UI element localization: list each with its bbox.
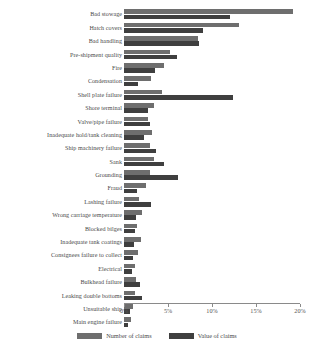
bar-value-of-claims <box>124 282 140 287</box>
category-label: Hatch covers <box>0 25 124 32</box>
category-label: Unsuitable ship <box>0 306 124 313</box>
bar-number-of-claims <box>124 317 131 322</box>
bar-group <box>124 289 314 302</box>
chart-row: Electrical <box>0 262 314 275</box>
chart-row: Fire <box>0 62 314 75</box>
category-label: Leaking double bottoms <box>0 293 124 300</box>
chart-row: Leaking double bottoms <box>0 289 314 302</box>
bar-value-of-claims <box>124 296 142 301</box>
chart-row: Ship machinery failure <box>0 142 314 155</box>
category-label: Bad stowage <box>0 11 124 18</box>
bar-number-of-claims <box>124 237 141 242</box>
category-label: Consignees failure to collect <box>0 252 124 259</box>
bar-group <box>124 182 314 195</box>
bar-value-of-claims <box>124 202 151 207</box>
plot-area: Bad stowageHatch coversBad handlingPre-s… <box>0 8 314 303</box>
category-label: Fire <box>0 65 124 72</box>
bar-group <box>124 115 314 128</box>
chart-row: Grounding <box>0 169 314 182</box>
bar-group <box>124 169 314 182</box>
bar-number-of-claims <box>124 250 138 255</box>
axis-tick-label: 20% <box>294 307 305 315</box>
bar-value-of-claims <box>124 82 138 87</box>
bar-number-of-claims <box>124 9 293 14</box>
bar-number-of-claims <box>124 157 154 162</box>
bar-value-of-claims <box>124 135 144 140</box>
chart-row: Hatch covers <box>0 21 314 34</box>
bar-number-of-claims <box>124 36 198 41</box>
bar-value-of-claims <box>124 323 128 328</box>
legend-item: Value of claims <box>169 332 237 339</box>
chart-row: Inadequate tank coatings <box>0 236 314 249</box>
category-label: Sank <box>0 159 124 166</box>
legend-item: Number of claims <box>77 332 151 339</box>
legend-swatch-icon <box>77 333 102 339</box>
bar-number-of-claims <box>124 63 164 68</box>
chart-row: Blocked bilges <box>0 222 314 235</box>
chart-row: Bad stowage <box>0 8 314 21</box>
category-label: Bulkhead failure <box>0 279 124 286</box>
chart-row: Pre-shipment quality <box>0 48 314 61</box>
chart-legend: Number of claimsValue of claims <box>0 332 314 339</box>
bar-number-of-claims <box>124 197 139 202</box>
chart-row: Bad handling <box>0 35 314 48</box>
chart-row: Fraud <box>0 182 314 195</box>
bar-value-of-claims <box>124 41 199 46</box>
bar-group <box>124 21 314 34</box>
category-label: Grounding <box>0 172 124 179</box>
bar-number-of-claims <box>124 23 239 28</box>
bar-group <box>124 102 314 115</box>
category-label: Shore terminal <box>0 105 124 112</box>
chart-row: Lashing failure <box>0 195 314 208</box>
bar-group <box>124 262 314 275</box>
category-label: Pre-shipment quality <box>0 52 124 59</box>
bar-number-of-claims <box>124 90 162 95</box>
legend-label: Number of claims <box>106 332 151 339</box>
category-label: Fraud <box>0 185 124 192</box>
axis-tick-label: 0% <box>120 307 128 315</box>
bar-value-of-claims <box>124 229 135 234</box>
bar-number-of-claims <box>124 264 135 269</box>
category-label: Inadequate tank coatings <box>0 239 124 246</box>
chart-row: Valve/pipe failure <box>0 115 314 128</box>
bar-group <box>124 249 314 262</box>
bar-group <box>124 236 314 249</box>
bar-group <box>124 142 314 155</box>
category-label: Ship machinery failure <box>0 145 124 152</box>
bar-value-of-claims <box>124 15 230 20</box>
category-label: Bad handling <box>0 38 124 45</box>
bar-group <box>124 222 314 235</box>
bar-value-of-claims <box>124 215 136 220</box>
legend-label: Value of claims <box>198 332 237 339</box>
axis-tick-label: 15% <box>250 307 261 315</box>
bar-value-of-claims <box>124 95 233 100</box>
bar-group <box>124 276 314 289</box>
bar-value-of-claims <box>124 122 150 127</box>
bar-value-of-claims <box>124 175 178 180</box>
bar-number-of-claims <box>124 291 135 296</box>
bar-value-of-claims <box>124 162 164 167</box>
bar-number-of-claims <box>124 117 148 122</box>
category-label: Lashing failure <box>0 199 124 206</box>
bar-group <box>124 316 314 329</box>
bar-number-of-claims <box>124 103 154 108</box>
bar-group <box>124 48 314 61</box>
bar-group <box>124 129 314 142</box>
chart-row: Shell plate failure <box>0 88 314 101</box>
bar-number-of-claims <box>124 224 137 229</box>
category-label: Shell plate failure <box>0 92 124 99</box>
category-label: Electrical <box>0 266 124 273</box>
chart-row: Main engine failure <box>0 316 314 329</box>
chart-row: Bulkhead failure <box>0 276 314 289</box>
chart-row: Wrong carriage temperature <box>0 209 314 222</box>
bar-value-of-claims <box>124 189 137 194</box>
bar-value-of-claims <box>124 108 148 113</box>
bar-value-of-claims <box>124 28 203 33</box>
category-label: Inadequate hold/tank cleaning <box>0 132 124 139</box>
bar-number-of-claims <box>124 130 152 135</box>
bar-number-of-claims <box>124 76 151 81</box>
category-label: Main engine failure <box>0 319 124 326</box>
category-label: Wrong carriage temperature <box>0 212 124 219</box>
bar-group <box>124 155 314 168</box>
chart-row: Condensation <box>0 75 314 88</box>
